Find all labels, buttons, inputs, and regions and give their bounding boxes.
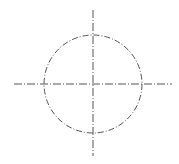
circle-centerline-diagram [0,0,179,164]
